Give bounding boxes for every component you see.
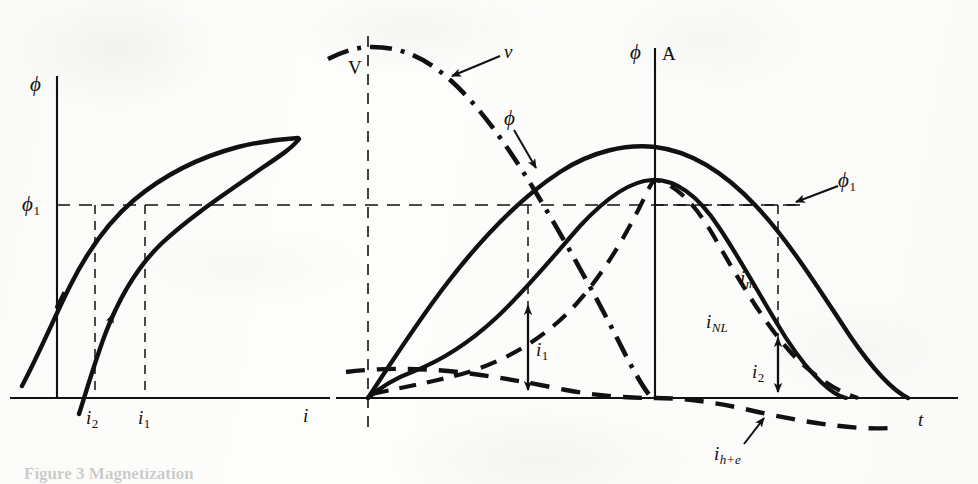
left-tick-i1-subscript: 1 [144, 416, 151, 431]
core-loss-current-symbol: i [714, 443, 719, 464]
left-phi1-symbol: ϕ [22, 192, 33, 216]
figure-caption: Figure 3 Magnetization [24, 468, 194, 484]
core-loss-label-leader [744, 418, 764, 444]
figure-container: ϕ ϕ1 i2 i1 i V v ϕ ϕ A ϕ1 im iNL ih+e i1… [0, 0, 978, 484]
left-y-axis-label: ϕ [30, 74, 41, 95]
voltage-label-leader [452, 56, 500, 76]
core-loss-current-label: ih+e [714, 444, 741, 466]
right-phi1-label: ϕ1 [838, 170, 856, 193]
magnetizing-current-subscript: m [746, 276, 755, 291]
i1-measure-subscript: 1 [542, 348, 549, 363]
flux-curve-label: ϕ [504, 108, 515, 129]
voltage-curve [328, 47, 652, 398]
phi1-label-leader [796, 186, 838, 202]
left-saturation-curves [22, 138, 299, 414]
left-tick-i1-symbol: i [138, 407, 143, 428]
i1-measure-label: i1 [536, 340, 548, 362]
no-load-current-curve [368, 180, 846, 398]
left-tick-i2: i2 [86, 408, 98, 430]
i2-measure-symbol: i [752, 361, 757, 382]
right-flux-axis-label: ϕ [630, 42, 641, 63]
right-plot-axes [336, 36, 958, 432]
no-load-current-subscript: NL [712, 320, 728, 335]
no-load-current-symbol: i [706, 311, 711, 332]
magnetizing-current-symbol: i [740, 267, 745, 288]
magnetizing-current-label: im [740, 268, 755, 290]
left-phi1-subscript: 1 [33, 203, 40, 218]
figure-caption-strip: Figure 3 Magnetization [0, 468, 978, 484]
volts-axis-label: V [348, 58, 362, 77]
left-tick-i2-symbol: i [86, 407, 91, 428]
amps-axis-label: A [662, 44, 676, 63]
i2-measure-subscript: 2 [758, 370, 765, 385]
left-phi1-label: ϕ1 [22, 194, 40, 217]
left-tick-i1: i1 [138, 408, 150, 430]
left-upper-branch [22, 138, 298, 386]
core-loss-current-subscript: h+e [720, 452, 741, 467]
i1-measure-symbol: i [536, 339, 541, 360]
left-lower-branch [79, 139, 299, 414]
left-tick-i2-subscript: 2 [92, 416, 99, 431]
i2-measure-label: i2 [752, 362, 764, 384]
right-phi1-symbol: ϕ [838, 168, 849, 192]
left-x-axis-label: i [303, 406, 308, 425]
right-phi1-subscript: 1 [849, 179, 856, 194]
no-load-current-label: iNL [706, 312, 728, 334]
voltage-curve-label: v [504, 42, 512, 61]
right-x-axis-label: t [918, 410, 923, 429]
